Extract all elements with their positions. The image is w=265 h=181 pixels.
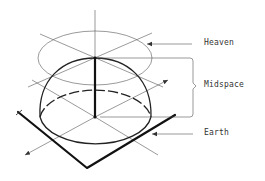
heaven-label: Heaven [204,38,234,47]
zenith-point [94,57,97,60]
midspace-bracket [100,58,196,117]
center-point [93,115,96,118]
earth-axis-2 [25,117,95,155]
heaven-axis-2 [28,33,152,87]
cosmology-diagram [0,0,265,181]
earth-label: Earth [204,128,229,137]
earth-axis-1 [95,80,168,117]
midspace-label: Midspace [204,80,244,89]
